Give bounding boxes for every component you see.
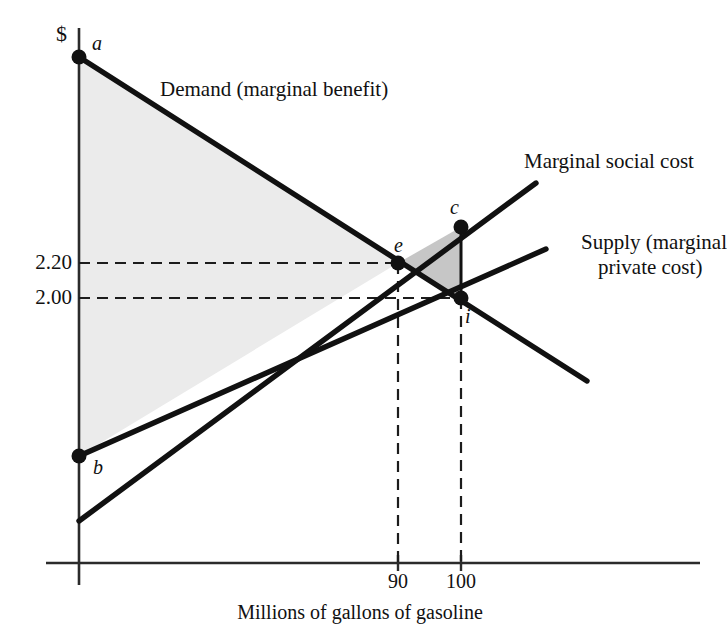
point-label-b: b xyxy=(93,456,103,478)
point-marker-a xyxy=(72,50,87,65)
point-label-c: c xyxy=(450,196,459,218)
y-axis-currency-label: $ xyxy=(56,22,67,47)
y-axis-tick-label-2-20: 2.20 xyxy=(0,251,72,275)
demand-curve-label: Demand (marginal benefit) xyxy=(160,78,388,102)
point-marker-e xyxy=(391,256,406,271)
point-label-a: a xyxy=(92,32,102,54)
shaded-region-abe xyxy=(79,57,398,456)
marginal-social-cost-curve-label: Marginal social cost xyxy=(524,150,694,174)
supply-curve-label-line1: Supply (marginal xyxy=(581,231,727,255)
point-marker-c xyxy=(454,220,469,235)
y-axis-tick-label-2-00: 2.00 xyxy=(0,286,72,310)
point-label-i: i xyxy=(465,305,471,327)
point-label-e: e xyxy=(394,234,403,256)
x-axis-tick-label-100: 100 xyxy=(428,570,494,592)
supply-curve-label-line2: private cost) xyxy=(598,256,702,280)
x-axis-title: Millions of gallons of gasoline xyxy=(160,601,560,623)
x-axis-tick-label-90: 90 xyxy=(368,570,428,592)
point-marker-i xyxy=(454,291,469,306)
point-marker-b xyxy=(72,449,87,464)
